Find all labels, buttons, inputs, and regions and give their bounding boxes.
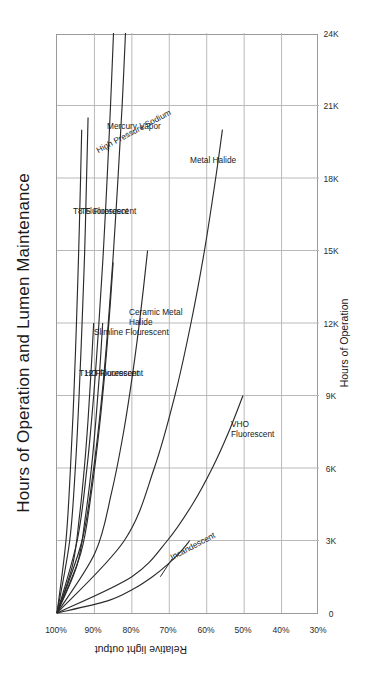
series-label-t5-fluorescent: T5 Fluorescent [81,207,136,217]
x-tick-label: 9K [326,392,336,402]
x-tick-label: 24K [323,29,338,39]
plot-svg [57,33,319,613]
y-tick-label: 90% [85,625,102,635]
x-tick-label: 12K [323,319,338,329]
series-label-slimline-flourescent: Slimline Flourescent [94,328,169,338]
chart-figure: Hours of Operation and Lumen Maintenance… [0,0,372,686]
curve-t5-fluorescent [57,118,88,613]
y-tick-label: 70% [160,625,177,635]
series-label-ho-flourescent: HO Flourescent [85,369,143,379]
series-label-metal-halide: Metal Halide [190,156,236,166]
plot-area: T8 FluorescentT5 FluorescentHigh Pressur… [56,34,318,614]
y-tick-label: 100% [45,625,67,635]
x-axis-title: Hours of Operation [338,0,350,686]
y-tick-label: 50% [235,625,252,635]
x-tick-label: 0 [329,609,334,619]
chart-title: Hours of Operation and Lumen Maintenance [14,0,34,686]
series-label-vho-fluorescent: VHO Fluorescent [231,420,289,439]
curve-vho-fluorescent [57,396,243,614]
x-gridlines [57,106,319,541]
curve-ceramic-metal-halide [57,251,148,614]
y-tick-label: 80% [122,625,139,635]
curve-slimline-flourescent [57,263,113,613]
x-tick-label: 6K [326,464,336,474]
series-label-mercury-vapor: Mercury Vapor [107,122,161,132]
x-tick-label: 21K [323,102,338,112]
y-tick-label: 40% [272,625,289,635]
x-tick-label: 3K [326,537,336,547]
y-tick-label: 30% [309,625,326,635]
y-tick-label: 60% [197,625,214,635]
series-label-ceramic-metal-halide: Ceramic Metal Halide [129,309,187,328]
x-tick-label: 15K [323,247,338,257]
x-tick-label: 18K [323,174,338,184]
incandescent-leader-line [160,559,172,577]
y-axis-title: Relative light output [95,644,187,656]
